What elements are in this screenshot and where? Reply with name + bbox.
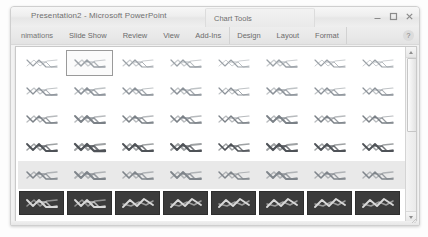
chart-style-cell[interactable] — [162, 106, 209, 132]
help-icon[interactable]: ? — [403, 30, 414, 41]
chart-style-cell[interactable] — [210, 106, 257, 132]
chart-style-cell[interactable] — [258, 78, 305, 104]
chart-style-cell[interactable] — [162, 78, 209, 104]
chart-style-cell[interactable] — [306, 190, 353, 216]
chart-style-cell[interactable] — [114, 106, 161, 132]
chart-style-cell[interactable] — [210, 162, 257, 188]
chart-style-cell[interactable] — [66, 190, 113, 216]
chart-style-cell[interactable] — [114, 78, 161, 104]
chart-style-cell[interactable] — [18, 106, 65, 132]
gallery-row — [18, 189, 406, 217]
chart-style-cell[interactable] — [162, 50, 209, 76]
ribbon-tab-nimations[interactable]: nimations — [13, 27, 61, 44]
powerpoint-window: Presentation2 - Microsoft PowerPoint Cha… — [10, 6, 420, 226]
chart-style-cell[interactable] — [66, 162, 113, 188]
chart-style-cell[interactable] — [114, 134, 161, 160]
chart-style-cell[interactable] — [210, 50, 257, 76]
chart-style-thumbnail-icon — [68, 52, 111, 74]
chart-style-cell[interactable] — [258, 190, 305, 216]
chart-style-cell[interactable] — [210, 134, 257, 160]
chart-style-cell[interactable] — [354, 50, 401, 76]
chart-style-thumbnail-icon — [308, 136, 351, 158]
chart-style-cell[interactable] — [66, 134, 113, 160]
chart-style-thumbnail-icon — [211, 191, 256, 215]
chart-style-thumbnail-icon — [212, 52, 255, 74]
chart-style-thumbnail-icon — [164, 164, 207, 186]
chart-style-cell[interactable] — [114, 50, 161, 76]
chart-style-thumbnail-icon — [20, 136, 63, 158]
chart-style-thumbnail-icon — [68, 136, 111, 158]
minimize-icon[interactable] — [372, 11, 383, 21]
chart-style-thumbnail-icon — [19, 191, 64, 215]
ribbon-tab-layout[interactable]: Layout — [269, 27, 308, 44]
chart-style-thumbnail-icon — [260, 80, 303, 102]
chart-style-thumbnail-icon — [308, 52, 351, 74]
chart-style-cell[interactable] — [306, 162, 353, 188]
gallery-row — [18, 161, 406, 189]
chart-style-cell[interactable] — [258, 162, 305, 188]
chart-style-thumbnail-icon — [356, 136, 399, 158]
chart-style-cell[interactable] — [114, 162, 161, 188]
chart-style-cell[interactable] — [306, 106, 353, 132]
chart-style-thumbnail-icon — [355, 191, 400, 215]
chart-style-cell[interactable] — [162, 134, 209, 160]
chart-style-cell[interactable] — [306, 78, 353, 104]
chart-style-cell[interactable] — [354, 162, 401, 188]
window-controls — [372, 11, 415, 21]
resize-grip-icon[interactable] — [411, 218, 417, 224]
chart-style-thumbnail-icon — [20, 80, 63, 102]
chart-style-cell[interactable] — [354, 134, 401, 160]
chart-style-thumbnail-icon — [356, 164, 399, 186]
chart-style-cell[interactable] — [258, 50, 305, 76]
scroll-up-button[interactable] — [406, 47, 416, 58]
ribbon-tab-review[interactable]: Review — [115, 27, 156, 44]
screen: Presentation2 - Microsoft PowerPoint Cha… — [0, 0, 428, 237]
chevron-up-icon — [409, 51, 413, 54]
chart-style-cell[interactable] — [18, 162, 65, 188]
ribbon-tab-format[interactable]: Format — [307, 27, 347, 44]
window-title: Presentation2 - Microsoft PowerPoint — [31, 11, 167, 20]
chart-style-cell[interactable] — [210, 190, 257, 216]
chart-style-thumbnail-icon — [20, 108, 63, 130]
chart-tools-label: Chart Tools — [214, 14, 252, 23]
title-bar: Presentation2 - Microsoft PowerPoint Cha… — [11, 7, 419, 28]
chart-style-cell[interactable] — [66, 106, 113, 132]
gallery-vertical-scrollbar[interactable] — [405, 47, 416, 222]
chart-style-cell[interactable] — [66, 50, 113, 76]
chart-style-thumbnail-icon — [308, 164, 351, 186]
ribbon-tab-design[interactable]: Design — [229, 27, 268, 44]
chart-style-cell[interactable] — [306, 50, 353, 76]
chart-styles-gallery[interactable] — [15, 46, 417, 223]
restore-icon[interactable] — [388, 11, 399, 21]
scrollbar-thumb[interactable] — [407, 58, 417, 132]
window-bottom-strip — [11, 221, 419, 225]
chart-style-thumbnail-icon — [212, 136, 255, 158]
chart-style-thumbnail-icon — [356, 108, 399, 130]
ribbon-tab-view[interactable]: View — [155, 27, 187, 44]
gallery-row — [18, 133, 406, 161]
chart-style-cell[interactable] — [18, 78, 65, 104]
chart-style-cell[interactable] — [18, 50, 65, 76]
ribbon-tab-add-ins[interactable]: Add-Ins — [187, 27, 229, 44]
chart-style-cell[interactable] — [354, 106, 401, 132]
chart-style-cell[interactable] — [258, 106, 305, 132]
chart-style-cell[interactable] — [354, 190, 401, 216]
chart-style-thumbnail-icon — [356, 80, 399, 102]
ribbon-tab-slide-show[interactable]: Slide Show — [61, 27, 115, 44]
chart-style-cell[interactable] — [306, 134, 353, 160]
chart-style-thumbnail-icon — [308, 108, 351, 130]
chart-tools-context-tab[interactable]: Chart Tools — [205, 8, 315, 28]
chart-style-thumbnail-icon — [308, 80, 351, 102]
chart-style-cell[interactable] — [162, 190, 209, 216]
chart-style-cell[interactable] — [114, 190, 161, 216]
close-icon[interactable] — [404, 11, 415, 21]
chart-style-cell[interactable] — [162, 162, 209, 188]
chart-style-cell[interactable] — [354, 78, 401, 104]
chart-style-cell[interactable] — [210, 78, 257, 104]
chart-style-cell[interactable] — [18, 190, 65, 216]
chart-style-thumbnail-icon — [20, 164, 63, 186]
chart-style-thumbnail-icon — [20, 52, 63, 74]
chart-style-cell[interactable] — [18, 134, 65, 160]
chart-style-cell[interactable] — [258, 134, 305, 160]
chart-style-cell[interactable] — [66, 78, 113, 104]
